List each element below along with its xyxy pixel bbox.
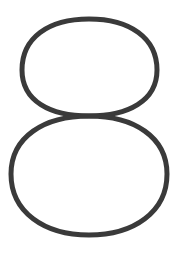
bottom-loop <box>11 116 167 235</box>
digit-eight-icon <box>0 0 176 254</box>
top-loop <box>22 19 157 116</box>
glyph-canvas <box>0 0 176 254</box>
